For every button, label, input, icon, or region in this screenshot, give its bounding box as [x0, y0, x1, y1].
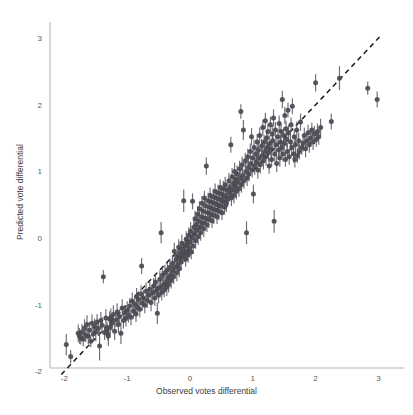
x-tick-label: -2: [61, 374, 68, 383]
y-tick-label: 3: [28, 34, 42, 43]
x-axis-title: Observed votes differential: [0, 386, 413, 396]
y-axis-title: Predicted vote differential: [15, 112, 25, 272]
y-tick-label: -2: [28, 367, 42, 376]
plot-canvas: [0, 0, 413, 415]
y-tick-label: -1: [28, 300, 42, 309]
y-tick-label: 2: [28, 100, 42, 109]
x-tick-label: 2: [313, 374, 317, 383]
x-tick-label: 3: [376, 374, 380, 383]
y-tick-label: 1: [28, 167, 42, 176]
x-tick-label: 1: [251, 374, 255, 383]
y-tick-label: 0: [28, 234, 42, 243]
x-tick-label: 0: [188, 374, 192, 383]
x-tick-label: -1: [124, 374, 131, 383]
scatter-plot-figure: -2-10123-2-10123 Observed votes differen…: [0, 0, 413, 415]
